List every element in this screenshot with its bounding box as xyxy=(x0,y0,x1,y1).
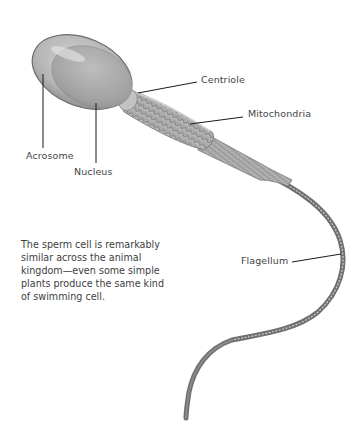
leader-centriole xyxy=(138,82,197,93)
flagellum xyxy=(186,172,343,418)
label-nucleus: Nucleus xyxy=(74,166,113,177)
caption-text: The sperm cell is remarkably similar acr… xyxy=(21,238,171,303)
leader-mitochondria xyxy=(190,117,243,124)
label-centriole: Centriole xyxy=(201,74,245,85)
label-acrosome: Acrosome xyxy=(26,150,74,161)
label-mitochondria: Mitochondria xyxy=(248,108,311,119)
label-flagellum: Flagellum xyxy=(241,255,288,266)
sperm-cell-diagram xyxy=(0,0,363,443)
leader-flagellum xyxy=(292,254,341,262)
